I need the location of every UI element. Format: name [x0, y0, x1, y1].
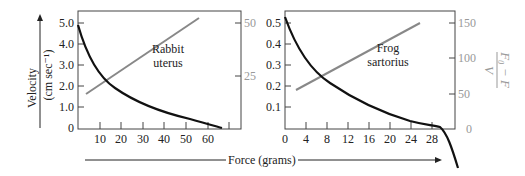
chart-frog-sartorius: 0.1 0.2 0.3 0.4 0.5 0 4 8 12 16 20 24 28…	[266, 11, 476, 168]
ytick: 0.1	[266, 100, 281, 114]
ytick: 4.0	[59, 37, 74, 51]
annotation-uterus: uterus	[153, 56, 183, 70]
ylabel-denominator: V	[482, 66, 497, 76]
xtick: 12	[342, 132, 354, 146]
ytick: 5.0	[59, 16, 74, 30]
annotation-sartorius: sartorius	[367, 55, 409, 69]
ylabel-numerator: F₀ − F	[498, 51, 513, 89]
right-ylabel: F₀ − F V	[482, 51, 513, 89]
ytick: 2.0	[59, 79, 74, 93]
figure: Velocity (cm sec⁻¹) 0 1.0 2.0 3.0	[0, 0, 525, 176]
y2tick: 0	[466, 122, 472, 136]
xtick: 8	[324, 132, 330, 146]
y2tick: 150	[458, 16, 476, 30]
xtick: 24	[405, 132, 417, 146]
y2tick: 25	[244, 69, 256, 83]
xtick: 30	[137, 132, 149, 146]
xtick: 60	[202, 132, 214, 146]
xtick: 0	[282, 132, 288, 146]
ytick: 3.0	[59, 58, 74, 72]
arrow-up-icon	[37, 14, 43, 21]
annotation-frog: Frog	[377, 41, 400, 55]
xtick: 20	[384, 132, 396, 146]
ytick: 0.5	[266, 16, 281, 30]
xtick: 28	[426, 132, 438, 146]
ytick: 0.2	[266, 79, 281, 93]
ylabel-units: (cm sec⁻¹)	[41, 50, 55, 101]
shared-xlabel: Force (grams)	[85, 153, 442, 167]
xlabel-force: Force (grams)	[228, 153, 296, 167]
series-velocity-curve	[78, 25, 222, 128]
y2tick: 50	[458, 87, 470, 101]
xtick: 10	[94, 132, 106, 146]
chart-rabbit-uterus: 0 1.0 2.0 3.0 4.0 5.0 10 20 30 40 50 60 …	[59, 11, 256, 146]
ytick: 0.4	[266, 37, 281, 51]
y2tick: 100	[458, 51, 476, 65]
ylabel-velocity: Velocity	[25, 68, 39, 108]
xtick: 4	[303, 132, 309, 146]
y2tick: 50	[244, 16, 256, 30]
arrow-right-icon	[435, 157, 442, 163]
xtick: 50	[180, 132, 192, 146]
left-ylabel: Velocity (cm sec⁻¹)	[25, 14, 55, 128]
xtick: 16	[363, 132, 375, 146]
ytick: 0.3	[266, 58, 281, 72]
ytick: 0	[68, 121, 74, 135]
xtick: 20	[115, 132, 127, 146]
annotation-rabbit: Rabbit	[152, 42, 185, 56]
ytick: 1.0	[59, 100, 74, 114]
xtick: 40	[158, 132, 170, 146]
